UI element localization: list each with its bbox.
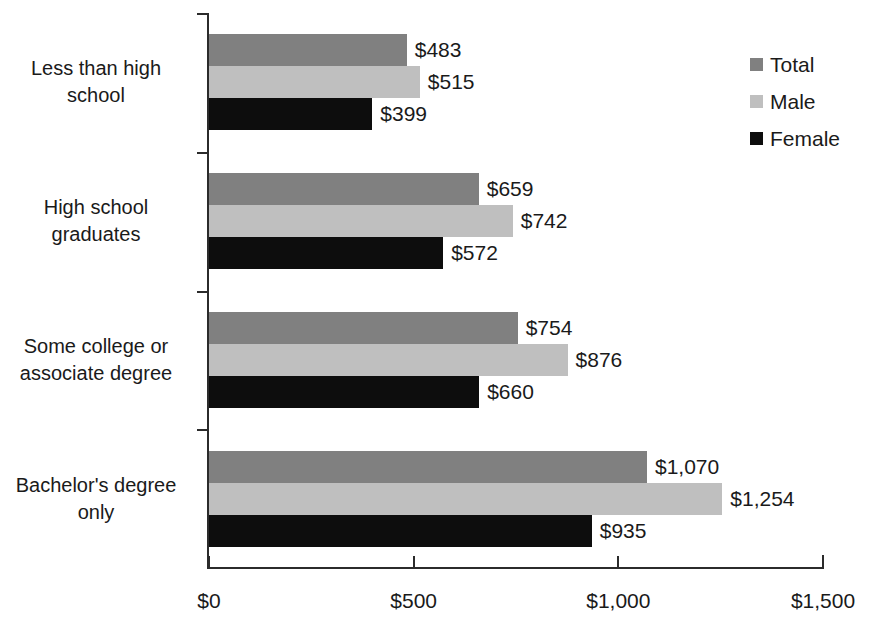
category-label: Bachelor's degreeonly: [0, 472, 192, 526]
category-label-line: Bachelor's degree: [0, 472, 192, 499]
x-axis-tick: [617, 556, 619, 569]
bar-value-label: $483: [415, 34, 462, 66]
legend-item-total[interactable]: Total: [750, 46, 840, 83]
bar-value-label: $935: [600, 515, 647, 547]
bar-male: [209, 483, 722, 515]
bar-female: [209, 237, 443, 269]
legend-label: Male: [770, 90, 816, 114]
x-axis-tick-label: $1,500: [791, 589, 855, 613]
bar-female: [209, 98, 372, 130]
legend-label: Female: [770, 127, 840, 151]
bar-male: [209, 205, 513, 237]
category-label-line: graduates: [0, 221, 192, 248]
category-label-line: Some college or: [0, 333, 192, 360]
bar-value-label: $572: [451, 237, 498, 269]
bar-value-label: $515: [428, 66, 475, 98]
category-label-line: associate degree: [0, 360, 192, 387]
legend-swatch-icon: [750, 132, 763, 145]
category-label-line: school: [0, 82, 192, 109]
legend-item-male[interactable]: Male: [750, 83, 840, 120]
bar-chart: $0$500$1,000$1,500 Less than highschoolH…: [0, 0, 872, 641]
x-axis-tick: [822, 556, 824, 569]
x-axis-line: [208, 567, 824, 569]
category-tick: [197, 291, 208, 293]
bar-value-label: $742: [521, 205, 568, 237]
category-label: High schoolgraduates: [0, 194, 192, 248]
bar-male: [209, 344, 568, 376]
legend-swatch-icon: [750, 95, 763, 108]
legend-label: Total: [770, 53, 814, 77]
category-tick: [197, 152, 208, 154]
bar-female: [209, 376, 479, 408]
x-axis-tick: [208, 556, 210, 569]
x-axis-tick-label: $1,000: [586, 589, 650, 613]
bar-total: [209, 312, 518, 344]
category-tick: [197, 429, 208, 431]
category-label-line: only: [0, 499, 192, 526]
legend-swatch-icon: [750, 58, 763, 71]
category-label: Some college orassociate degree: [0, 333, 192, 387]
bar-value-label: $754: [526, 312, 573, 344]
category-label-line: Less than high: [0, 55, 192, 82]
y-axis-top-cap: [197, 13, 208, 15]
bar-female: [209, 515, 592, 547]
bar-value-label: $1,070: [655, 451, 719, 483]
category-label: Less than highschool: [0, 55, 192, 109]
bar-total: [209, 34, 407, 66]
bar-value-label: $876: [576, 344, 623, 376]
category-label-line: High school: [0, 194, 192, 221]
bar-total: [209, 173, 479, 205]
bar-value-label: $1,254: [730, 483, 794, 515]
bar-value-label: $399: [380, 98, 427, 130]
legend-item-female[interactable]: Female: [750, 120, 840, 157]
bar-value-label: $659: [487, 173, 534, 205]
bar-value-label: $660: [487, 376, 534, 408]
x-axis-tick: [413, 556, 415, 569]
bar-male: [209, 66, 420, 98]
legend: TotalMaleFemale: [750, 46, 840, 157]
x-axis-tick-label: $500: [390, 589, 437, 613]
x-axis-tick-label: $0: [197, 589, 220, 613]
bar-total: [209, 451, 647, 483]
